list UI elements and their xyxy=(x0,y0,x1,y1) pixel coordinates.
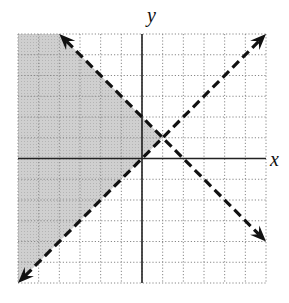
x-axis-label: x xyxy=(270,148,279,171)
coordinate-plane xyxy=(0,0,289,303)
y-axis-label: y xyxy=(147,4,156,27)
